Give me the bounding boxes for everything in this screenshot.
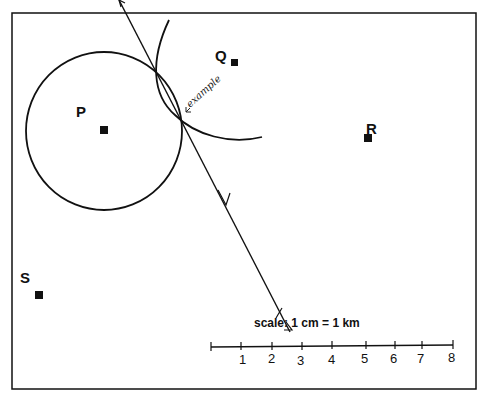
label-q: Q — [215, 47, 227, 64]
scale-tick-5: 5 — [361, 351, 368, 366]
label-r: R — [366, 120, 377, 137]
label-s: S — [20, 269, 30, 286]
point-s-marker — [35, 291, 43, 299]
scale-tick-3: 3 — [297, 353, 304, 368]
label-p: P — [76, 103, 86, 120]
scale-tick-8: 8 — [448, 350, 455, 365]
scale-tick-2: 2 — [268, 351, 275, 366]
handwritten-annotation: example — [184, 73, 223, 110]
map-frame — [12, 13, 476, 389]
construction-line — [119, 0, 290, 332]
diagram-canvas: P Q R S example scale: 1 cm = 1 km 1 2 3… — [0, 0, 485, 402]
scale-tick-4: 4 — [328, 352, 335, 367]
scale-tick-7: 7 — [417, 351, 424, 366]
scale-tick-6: 6 — [390, 351, 397, 366]
point-q-marker — [231, 59, 238, 66]
point-p-marker — [100, 126, 108, 134]
scale-tick-1: 1 — [239, 352, 246, 367]
scale-label: scale: 1 cm = 1 km — [254, 316, 360, 330]
